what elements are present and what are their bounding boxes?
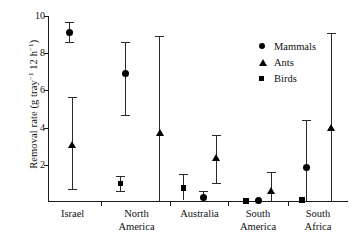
legend-glyph-circle — [256, 39, 270, 53]
x-axis-separator-tick — [170, 201, 171, 206]
legend-item: Mammals — [256, 38, 316, 54]
x-axis-separator-tick — [228, 201, 229, 206]
legend-glyph-triangle — [256, 55, 270, 69]
x-axis-separator-tick — [101, 201, 102, 206]
legend-item: Ants — [256, 54, 316, 70]
error-bar-cap-upper — [68, 97, 77, 98]
error-bar-cap-upper — [302, 120, 311, 121]
y-axis-tick-label: 4 — [40, 121, 45, 134]
data-point-ants — [267, 187, 275, 194]
error-bar-cap-lower — [65, 42, 74, 43]
y-axis-line — [48, 16, 49, 202]
legend-label: Mammals — [274, 41, 316, 52]
error-bar-cap-upper — [199, 191, 208, 192]
legend-glyph-square — [256, 71, 270, 85]
legend-item: Birds — [256, 70, 316, 86]
data-point-mammals — [200, 194, 207, 201]
error-bar — [159, 36, 160, 202]
y-axis-title-prefix: Removal rate (g tray — [28, 80, 39, 169]
data-point-ants — [327, 124, 335, 131]
data-point-birds — [118, 181, 124, 187]
legend-circle-icon — [259, 43, 265, 49]
y-axis-title-sup1: −1 — [27, 73, 35, 81]
error-bar-cap-upper — [116, 176, 125, 177]
error-bar-cap-upper — [155, 36, 164, 37]
error-bar — [331, 33, 332, 202]
y-axis-tick-label: 6 — [40, 83, 45, 96]
error-bar-cap-upper — [121, 42, 130, 43]
chart-figure: Removal rate (g tray−1 12 h−1) 246810 Is… — [0, 0, 355, 240]
data-point-ants — [68, 141, 76, 148]
error-bar-cap-lower — [116, 191, 125, 192]
legend-label: Ants — [274, 57, 294, 68]
legend-label: Birds — [274, 73, 297, 84]
y-axis-title-mid: 12 h — [28, 51, 39, 73]
y-axis-title: Removal rate (g tray−1 12 h−1) — [27, 19, 40, 189]
plot-area: 246810 IsraelNorth AmericaAustraliaSouth… — [48, 16, 348, 202]
error-bar-cap-upper — [267, 172, 276, 173]
legend-triangle-icon — [259, 59, 267, 66]
y-axis-title-sup2: −1 — [27, 43, 35, 51]
error-bar-cap-upper — [212, 135, 221, 136]
error-bar-cap-upper — [179, 174, 188, 175]
data-point-mammals — [303, 164, 310, 171]
data-point-birds — [299, 197, 305, 203]
error-bar-cap-upper — [65, 22, 74, 23]
error-bar-cap-lower — [121, 115, 130, 116]
data-point-birds — [181, 185, 187, 191]
y-axis-tick-label: 8 — [40, 46, 45, 59]
x-axis-separator-tick — [288, 201, 289, 206]
legend: MammalsAntsBirds — [256, 38, 316, 86]
legend-square-icon — [259, 76, 264, 81]
data-point-ants — [212, 154, 220, 161]
x-axis-group-label: South Africa — [278, 208, 355, 233]
error-bar-cap-lower — [68, 189, 77, 190]
data-point-mammals — [66, 29, 73, 36]
y-axis-tick-label: 10 — [35, 9, 45, 22]
data-point-mammals — [255, 197, 262, 204]
error-bar-cap-lower — [212, 183, 221, 184]
data-point-ants — [156, 129, 164, 136]
y-axis-tick-label: 2 — [40, 158, 45, 171]
data-point-mammals — [122, 70, 129, 77]
error-bar-cap-upper — [327, 33, 336, 34]
data-point-birds — [243, 198, 249, 204]
y-axis-title-suffix: ) — [28, 40, 39, 44]
error-bar — [306, 120, 307, 202]
error-bar — [125, 42, 126, 115]
